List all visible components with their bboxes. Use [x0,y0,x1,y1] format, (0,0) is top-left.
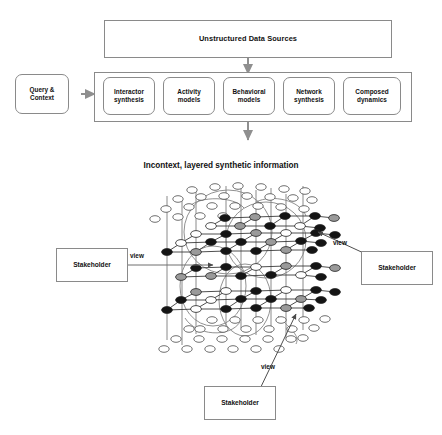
view-label-right: view [333,239,347,246]
stage-activity-models-label: Activity models [177,88,201,103]
lattice-cloud-bottom [159,316,330,353]
stage-behavioral-models-label: Behavioral models [232,88,265,103]
stakeholder-left-box[interactable]: Stakeholder [56,248,128,282]
section-title: Incontext, layered synthetic information [0,161,442,170]
layered-network-lattice [150,183,341,353]
stage-composed-dynamics-label: Composed dynamics [355,88,388,103]
stage-composed-dynamics[interactable]: Composed dynamics [343,77,401,115]
stage-network-synthesis[interactable]: Network synthesis [283,77,335,115]
stakeholder-bottom-box[interactable]: Stakeholder [204,386,276,420]
stage-interactor-synthesis[interactable]: Interactor synthesis [103,77,155,115]
query-context-label: Query & Context [30,86,55,101]
stage-interactor-synthesis-label: Interactor synthesis [114,88,144,103]
stage-activity-models[interactable]: Activity models [163,77,215,115]
stage-behavioral-models[interactable]: Behavioral models [223,77,275,115]
query-context-box[interactable]: Query & Context [15,74,69,114]
unstructured-data-sources-label: Unstructured Data Sources [199,35,297,44]
diagram-vector-layer [0,0,442,435]
view-label-left: view [130,252,144,259]
view-label-bottom: view [261,363,275,370]
diagram-canvas: Unstructured Data Sources Query & Contex… [0,0,442,435]
stakeholder-left-label: Stakeholder [73,261,111,269]
stage-network-synthesis-label: Network synthesis [294,88,324,103]
unstructured-data-sources-box[interactable]: Unstructured Data Sources [104,20,392,58]
stakeholder-bottom-label: Stakeholder [221,399,259,407]
stakeholder-right-box[interactable]: Stakeholder [361,251,433,285]
stakeholder-right-label: Stakeholder [378,264,416,272]
